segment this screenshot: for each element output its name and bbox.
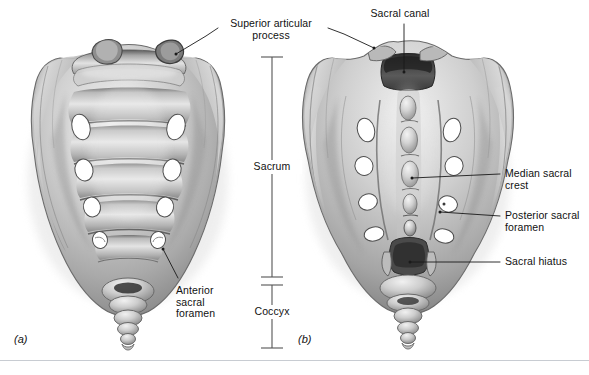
sacrum-posterior-illustration — [302, 41, 513, 349]
label-superior-articular-process: Superior articular process — [215, 18, 327, 41]
label-sacral-hiatus: Sacral hiatus — [505, 256, 589, 268]
leader-superior-articular-process-left — [176, 28, 218, 54]
leader-superior-articular-process-left-endpoint — [175, 53, 178, 56]
anatomy-figure-canvas — [0, 0, 589, 375]
coccyx-segment-4 — [121, 334, 136, 345]
coccyx-opening — [397, 297, 419, 305]
bracket-label-coccyx: Coccyx — [242, 305, 302, 319]
sacral-apex-opening — [114, 283, 142, 294]
leader-posterior-sacral-foramen-endpoint — [439, 211, 442, 214]
label-median-sacral-crest: Median sacral crest — [505, 168, 589, 191]
label-posterior-sacral-foramen: Posterior sacral foramen — [505, 210, 589, 233]
label-anterior-sacral-foramen: Anterior sacral foramen — [176, 285, 236, 320]
leader-sacral-canal-endpoint — [403, 71, 406, 74]
coccyx-anterior — [109, 296, 147, 350]
bottom-divider — [0, 360, 589, 361]
bracket-label-sacrum: Sacrum — [242, 160, 302, 174]
leader-superior-articular-process-right — [328, 28, 374, 48]
coccyx-segment-4 — [401, 333, 416, 344]
leader-superior-articular-process-right-endpoint — [373, 47, 376, 50]
leader-anterior-sacral-foramen-endpoint — [162, 248, 165, 251]
label-sacral-canal: Sacral canal — [360, 8, 440, 20]
leader-sacral-hiatus-endpoint — [409, 261, 412, 264]
panel-a-label: (a) — [14, 333, 27, 345]
coccyx-posterior — [387, 294, 429, 349]
panel-b-label: (b) — [298, 333, 311, 345]
sacral-crest-tubercle-5 — [404, 220, 416, 236]
leader-median-sacral-crest-endpoint — [411, 177, 414, 180]
